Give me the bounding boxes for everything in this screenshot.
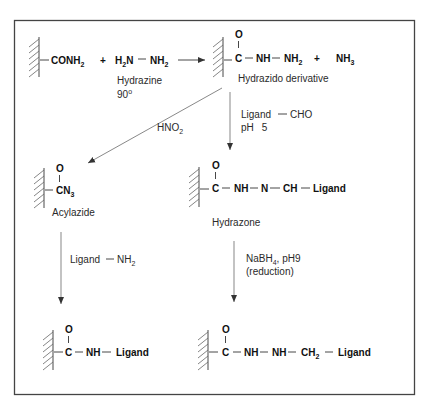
reduced-hydrazone-product: O C NH NH CH2 Ligand: [198, 324, 371, 370]
svg-text:NH: NH: [244, 347, 258, 358]
svg-text:O: O: [212, 160, 220, 171]
svg-text:Ligand: Ligand: [338, 347, 371, 358]
svg-text:NaBH4, pH9: NaBH4, pH9: [246, 253, 301, 266]
svg-text:CH2: CH2: [301, 347, 319, 360]
acylazide: O CN3 Acylazide: [34, 163, 95, 218]
product-name: Hydrazido derivative: [238, 73, 329, 84]
reagent-ligand-nh2: Ligand NH2: [70, 254, 135, 267]
solid-surface-icon: [34, 168, 44, 208]
svg-text:NH: NH: [234, 183, 248, 194]
reaction-arrow-hno2: [88, 88, 222, 163]
solid-surface-icon: [189, 167, 199, 207]
reagent-hno2: HNO2: [157, 122, 183, 135]
product-name: Hydrazone: [212, 217, 261, 228]
svg-text:O: O: [56, 163, 64, 174]
svg-text:N: N: [261, 183, 268, 194]
svg-text:NH: NH: [86, 347, 100, 358]
reagent-nabh4: NaBH4, pH9 (reduction): [246, 253, 301, 277]
svg-text:Ligand: Ligand: [70, 254, 100, 265]
svg-text:CONH2: CONH2: [51, 55, 84, 68]
hydrazido-derivative: O C NH NH2 Hydrazido derivative: [213, 29, 329, 84]
svg-text:O: O: [235, 29, 243, 40]
svg-text:O: O: [65, 324, 73, 335]
svg-text:NH2: NH2: [117, 254, 135, 267]
svg-text:CHO: CHO: [290, 109, 312, 120]
hydrazine-reagent: H2N NH2 Hydrazine 90o: [115, 55, 168, 100]
solid-surface-icon: [213, 37, 223, 77]
reaction-temperature: 90o: [117, 88, 132, 100]
reagent-ligand-cho: Ligand CHO pH5: [241, 109, 312, 133]
reagent-name: Hydrazine: [117, 75, 162, 86]
svg-text:NH: NH: [272, 347, 286, 358]
svg-text:Ligand: Ligand: [241, 109, 271, 120]
product-name: Acylazide: [52, 207, 95, 218]
svg-text:CH: CH: [283, 183, 297, 194]
svg-text:NH: NH: [256, 53, 270, 64]
svg-text:Ligand: Ligand: [116, 347, 149, 358]
reaction-diagram: CONH2 + H2N NH2 Hydrazine 90o O C NH NH2…: [0, 0, 428, 404]
solid-surface-icon: [29, 37, 39, 77]
svg-text:pH5: pH5: [241, 122, 268, 133]
svg-text:C: C: [65, 347, 72, 358]
svg-text:O: O: [222, 324, 230, 335]
ammonia-byproduct: NH3: [336, 53, 354, 66]
solid-support-amide: CONH2: [29, 37, 84, 77]
svg-text:CN3: CN3: [56, 185, 74, 198]
solid-surface-icon: [198, 330, 208, 370]
svg-text:H2N: H2N: [115, 55, 133, 68]
svg-text:(reduction): (reduction): [246, 266, 294, 277]
svg-text:NH2: NH2: [150, 55, 168, 68]
amide-ligand-product: O C NH Ligand: [43, 324, 149, 370]
solid-surface-icon: [43, 330, 53, 370]
plus-sign: +: [314, 53, 320, 64]
svg-text:Ligand: Ligand: [313, 183, 346, 194]
svg-text:C: C: [235, 53, 242, 64]
svg-text:C: C: [212, 183, 219, 194]
plus-sign: +: [100, 55, 106, 66]
svg-text:NH2: NH2: [284, 53, 302, 66]
hydrazone: O C NH N CH Ligand Hydrazone: [189, 160, 346, 228]
svg-text:C: C: [222, 347, 229, 358]
